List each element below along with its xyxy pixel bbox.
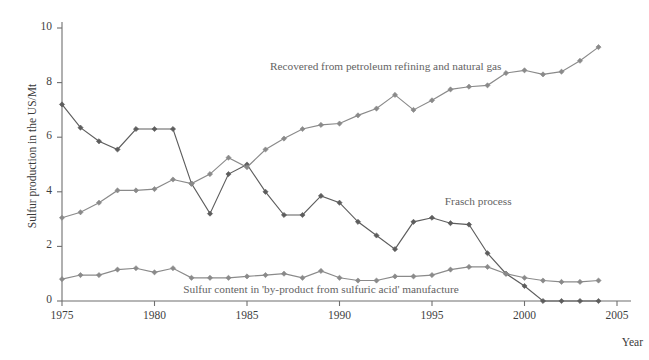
data-point — [466, 264, 471, 269]
y-tick-label: 0 — [0, 293, 52, 305]
data-point — [226, 171, 231, 176]
annotation-recovered: Recovered from petroleum refining and na… — [270, 60, 502, 72]
data-point — [411, 274, 416, 279]
data-point — [152, 270, 157, 275]
data-point — [577, 279, 582, 284]
data-point — [559, 69, 564, 74]
data-point — [448, 87, 453, 92]
data-point — [189, 275, 194, 280]
data-point — [152, 186, 157, 191]
data-point — [466, 84, 471, 89]
data-point — [59, 277, 64, 282]
data-point — [133, 266, 138, 271]
data-point — [429, 215, 434, 220]
series-line-0 — [62, 104, 599, 301]
data-point — [152, 126, 157, 131]
data-point — [596, 298, 601, 303]
y-tick-label: 2 — [0, 238, 52, 250]
data-point — [281, 136, 286, 141]
chart-canvas — [0, 0, 649, 360]
data-point — [392, 274, 397, 279]
data-point — [318, 268, 323, 273]
data-point — [78, 210, 83, 215]
data-point — [170, 266, 175, 271]
sulfur-production-figure: Sulfur production in the US/Mt Year 0246… — [0, 0, 649, 360]
data-point — [78, 272, 83, 277]
x-tick-label: 1985 — [227, 309, 267, 321]
data-point — [226, 275, 231, 280]
data-point — [337, 121, 342, 126]
data-point — [281, 271, 286, 276]
data-point — [559, 279, 564, 284]
x-tick-label: 1975 — [42, 309, 82, 321]
y-tick-label: 6 — [0, 129, 52, 141]
data-point — [300, 126, 305, 131]
data-point — [207, 275, 212, 280]
annotation-frasch: Frasch process — [445, 195, 512, 207]
data-point — [577, 298, 582, 303]
x-tick-label: 1980 — [135, 309, 175, 321]
data-point — [596, 278, 601, 283]
x-tick-label: 1990 — [320, 309, 360, 321]
y-tick-label: 8 — [0, 75, 52, 87]
data-point — [170, 126, 175, 131]
y-tick-label: 4 — [0, 184, 52, 196]
data-point — [337, 275, 342, 280]
data-point — [448, 267, 453, 272]
data-point — [263, 272, 268, 277]
x-tick-label: 1995 — [412, 309, 452, 321]
data-point — [189, 181, 194, 186]
data-point — [355, 113, 360, 118]
x-tick-label: 2005 — [597, 309, 637, 321]
data-point — [300, 275, 305, 280]
data-point — [170, 177, 175, 182]
data-point — [485, 264, 490, 269]
data-point — [522, 275, 527, 280]
data-point — [133, 188, 138, 193]
data-point — [318, 122, 323, 127]
data-point — [540, 72, 545, 77]
data-point — [115, 267, 120, 272]
data-point — [522, 68, 527, 73]
data-point — [207, 211, 212, 216]
x-tick-label: 2000 — [505, 309, 545, 321]
series-line-1 — [62, 47, 599, 218]
data-point — [429, 272, 434, 277]
y-tick-label: 10 — [0, 20, 52, 32]
data-point — [448, 221, 453, 226]
data-point — [429, 98, 434, 103]
series-line-2 — [62, 267, 599, 282]
data-point — [559, 298, 564, 303]
data-point — [59, 215, 64, 220]
data-point — [540, 278, 545, 283]
data-point — [96, 272, 101, 277]
data-point — [244, 274, 249, 279]
annotation-byproduct: Sulfur content in 'by-product from sulfu… — [183, 283, 458, 295]
